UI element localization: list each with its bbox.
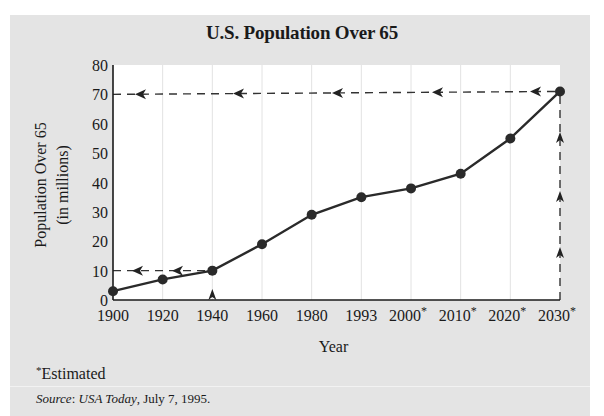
- y-tick-label: 20: [92, 233, 108, 250]
- x-tick-label: 2030*: [538, 304, 576, 324]
- x-tick-label: 1980: [296, 307, 328, 324]
- plot-area: [113, 65, 560, 300]
- y-axis-label-line: (in millions): [54, 145, 72, 225]
- data-point: [356, 192, 366, 202]
- data-point: [207, 266, 217, 276]
- y-tick-label: 70: [92, 86, 108, 103]
- data-point: [505, 133, 515, 143]
- source-publication: USA Today: [79, 391, 137, 406]
- source-label: Source: [36, 391, 72, 406]
- divider: [10, 386, 590, 387]
- y-tick-label: 50: [92, 145, 108, 162]
- data-point: [456, 169, 466, 179]
- x-axis-ticks: 1900192019401960198019932000*2010*2020*2…: [97, 304, 576, 324]
- data-point: [108, 286, 118, 296]
- y-tick-label: 10: [92, 263, 108, 280]
- x-axis-label: Year: [319, 338, 349, 355]
- data-point: [158, 274, 168, 284]
- source-date: , July 7, 1995.: [137, 391, 211, 406]
- source-citation: Source: USA Today, July 7, 1995.: [36, 391, 210, 407]
- x-tick-label: 1960: [246, 307, 278, 324]
- y-axis-ticks: 01020304050607080: [92, 57, 108, 309]
- y-tick-label: 80: [92, 57, 108, 74]
- x-tick-label: 1920: [147, 307, 179, 324]
- x-tick-label: 2010*: [439, 304, 477, 324]
- data-point: [406, 183, 416, 193]
- y-tick-label: 40: [92, 175, 108, 192]
- data-point: [257, 239, 267, 249]
- x-tick-label: 2020*: [488, 304, 526, 324]
- x-tick-label: 1900: [97, 307, 129, 324]
- x-tick-label: 1940: [196, 307, 228, 324]
- footnote: *Estimated: [36, 364, 105, 383]
- y-axis-label-line: Population Over 65: [32, 122, 50, 247]
- y-tick-label: 60: [92, 116, 108, 133]
- line-chart: Population Over 65(in millions) 01020304…: [0, 0, 604, 416]
- x-tick-label: 1993: [345, 307, 377, 324]
- data-point: [307, 210, 317, 220]
- footnote-text: Estimated: [42, 365, 106, 382]
- data-point: [555, 86, 565, 96]
- y-tick-label: 30: [92, 204, 108, 221]
- x-tick-label: 2000*: [389, 304, 427, 324]
- y-axis-label: Population Over 65(in millions): [32, 122, 72, 247]
